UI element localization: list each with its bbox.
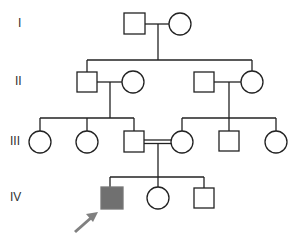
male-iii-5 [219,131,239,151]
female-ii-4 [241,71,263,93]
female-iii-1 [29,131,51,153]
male-iv-3 [194,188,214,208]
male-iii-3 [124,131,144,152]
female-iv-2 [147,187,169,209]
male-i-1 [124,13,145,34]
female-i-2 [169,13,191,35]
female-iii-2 [76,131,98,153]
affected-male-iv-1 [101,187,123,209]
pedigree-chart [0,0,296,241]
proband-arrow-icon [75,212,98,232]
female-ii-2 [122,71,144,93]
female-iii-4 [171,131,193,153]
male-ii-3 [194,72,214,92]
female-iii-6 [265,131,287,153]
male-ii-1 [77,72,97,92]
